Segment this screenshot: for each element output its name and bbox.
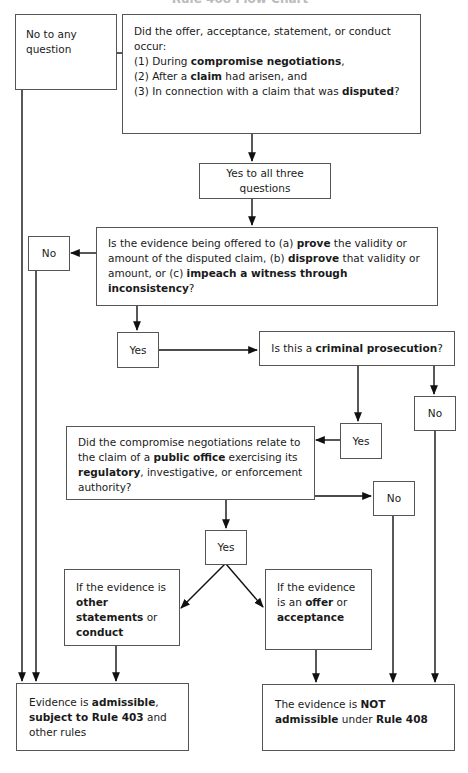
question-1-item-1: (1) During compromise negotiations, [134, 54, 409, 69]
question-2-yes-box: Yes [117, 332, 159, 368]
question-3-text: Is this a criminal prosecution? [271, 341, 442, 356]
question-1-intro: Did the offer, acceptance, statement, or… [134, 24, 409, 54]
yes-to-all-label: Yes to all three questions [200, 166, 330, 196]
question-3-no-box: No [414, 396, 456, 431]
question-2-box: Is the evidence being offered to (a) pro… [96, 227, 438, 306]
question-4-no-box: No [373, 481, 415, 516]
question-1-item-2: (2) After a claim had arisen, and [134, 69, 409, 84]
question-2-no-label: No [42, 246, 56, 261]
question-1-item-3: (3) In connection with a claim that was … [134, 84, 409, 99]
question-3-box: Is this a criminal prosecution? [259, 331, 455, 366]
question-3-no-label: No [428, 406, 442, 421]
question-4-yes-box: Yes [205, 530, 247, 565]
question-2-yes-label: Yes [130, 343, 147, 358]
no-to-any-question-box: No to any question [15, 14, 117, 90]
question-3-yes-box: Yes [340, 423, 382, 459]
offer-acceptance-text: If the evidence is an offer or acceptanc… [277, 581, 355, 623]
question-4-no-label: No [387, 491, 401, 506]
other-statements-text: If the evidence is other statements or c… [76, 581, 166, 638]
offer-acceptance-box: If the evidence is an offer or acceptanc… [265, 569, 372, 650]
question-2-no-box: No [28, 236, 70, 271]
question-4-text: Did the compromise negotiations relate t… [78, 436, 302, 493]
admissible-result-box: Evidence is admissible, subject to Rule … [16, 683, 189, 751]
not-admissible-result-text: The evidence is NOT admissible under Rul… [275, 698, 428, 725]
question-1-box: Did the offer, acceptance, statement, or… [122, 14, 421, 134]
other-statements-box: If the evidence is other statements or c… [64, 569, 180, 646]
question-4-yes-label: Yes [218, 540, 235, 555]
yes-to-all-box: Yes to all three questions [199, 163, 331, 199]
question-4-box: Did the compromise negotiations relate t… [66, 426, 315, 500]
question-2-text: Is the evidence being offered to (a) pro… [108, 237, 420, 294]
not-admissible-result-box: The evidence is NOT admissible under Rul… [262, 684, 455, 751]
question-3-yes-label: Yes [353, 434, 370, 449]
admissible-result-text: Evidence is admissible, subject to Rule … [29, 696, 167, 738]
no-to-any-label: No to any question [26, 28, 77, 55]
